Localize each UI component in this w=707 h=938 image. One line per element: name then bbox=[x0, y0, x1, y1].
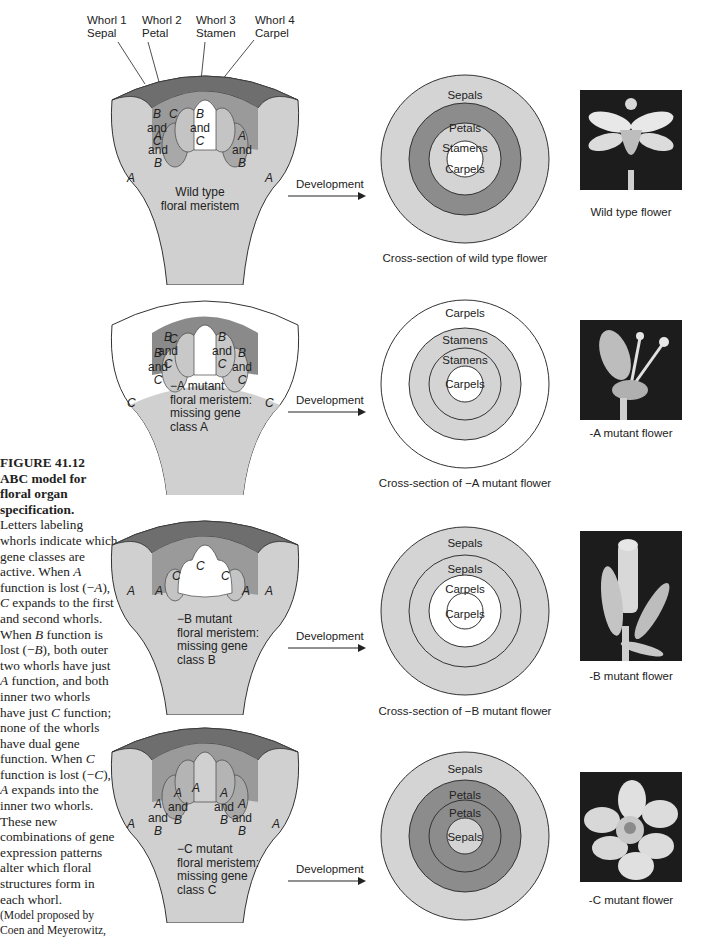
development-arrow-icon bbox=[288, 875, 368, 887]
and-text: and bbox=[168, 800, 188, 814]
gene-letter: A bbox=[238, 129, 246, 143]
photo-caption: -A mutant flower bbox=[566, 427, 696, 439]
ring-label-3: Stamens bbox=[405, 142, 525, 154]
photo-caption: Wild type flower bbox=[566, 206, 696, 218]
development-label: Development bbox=[296, 630, 364, 642]
ring-label-2: Sepals bbox=[405, 563, 525, 575]
minus-b-flower-photo bbox=[580, 531, 682, 661]
gene-letter: B bbox=[154, 824, 162, 838]
gene-letter: B bbox=[174, 813, 182, 827]
development-arrow-icon bbox=[288, 190, 368, 202]
gene-letter: B bbox=[238, 824, 246, 838]
meristem-w2-left-label: AandB bbox=[148, 798, 168, 839]
ring-label-1: Sepals bbox=[405, 89, 525, 101]
meristem-w2-right-label: AandB bbox=[232, 130, 252, 171]
cross-section-caption: Cross-section of −A mutant flower bbox=[355, 477, 575, 489]
photo-caption: -B mutant flower bbox=[566, 670, 696, 682]
ring-label-2: Petals bbox=[405, 122, 525, 134]
and-text: and bbox=[212, 344, 232, 358]
meristem-text-line: Wild type bbox=[150, 186, 250, 200]
meristem-description: −A mutant floral meristem: missing gene … bbox=[170, 380, 280, 434]
development-label: Development bbox=[296, 394, 364, 406]
meristem-w3-left-label: C bbox=[172, 570, 181, 584]
meristem-outer-right-label: A bbox=[265, 172, 273, 186]
gene-letter: C bbox=[196, 134, 205, 148]
ring-label-2: Petals bbox=[405, 789, 525, 801]
meristem-diagram bbox=[100, 505, 310, 715]
meristem-description: Wild type floral meristem bbox=[150, 186, 250, 213]
meristem-text-line: missing gene bbox=[177, 640, 287, 654]
ring-label-4: Carpels bbox=[405, 163, 525, 175]
meristem-description: −B mutant floral meristem: missing gene … bbox=[177, 613, 287, 667]
and-text: and bbox=[190, 121, 210, 135]
gene-letter: A bbox=[238, 797, 246, 811]
meristem-text-line: floral meristem bbox=[150, 200, 250, 214]
gene-letter: A bbox=[154, 797, 162, 811]
ring-label-4: Carpels bbox=[405, 608, 525, 620]
photo-caption: -C mutant flower bbox=[566, 894, 696, 906]
gene-letter: A bbox=[174, 786, 182, 800]
meristem-outer-right-label: A bbox=[272, 818, 280, 832]
gene-letter: B bbox=[220, 813, 228, 827]
meristem-text-line: missing gene bbox=[170, 407, 280, 421]
meristem-description: −C mutant floral meristem: missing gene … bbox=[177, 843, 287, 897]
ring-label-3: Petals bbox=[405, 807, 525, 819]
meristem-outer-left-label: C bbox=[127, 397, 136, 411]
and-text: and bbox=[232, 143, 252, 157]
gene-letter: A bbox=[220, 786, 228, 800]
meristem-text-line: class C bbox=[177, 884, 287, 898]
ring-label-1: Carpels bbox=[405, 307, 525, 319]
meristem-w3-right-label: C bbox=[221, 570, 230, 584]
and-text: and bbox=[232, 811, 252, 825]
meristem-w3-left-label: AandB bbox=[168, 787, 188, 828]
cross-section-caption: Cross-section of wild type flower bbox=[355, 252, 575, 264]
ring-label-3: Stamens bbox=[405, 354, 525, 366]
meristem-w3-right-label: BandC bbox=[212, 331, 232, 372]
gene-letter: B bbox=[196, 107, 204, 121]
gene-letter: B bbox=[153, 107, 161, 121]
meristem-center-label: A bbox=[192, 782, 200, 796]
ring-label-4: Carpels bbox=[405, 378, 525, 390]
gene-letter: C bbox=[154, 373, 163, 387]
development-arrow-icon bbox=[288, 406, 368, 418]
meristem-outer-left-label: A bbox=[127, 172, 135, 186]
panel-wild-type: A A C BandC BandC AandB AandB Wild type … bbox=[0, 60, 707, 285]
meristem-text-line: floral meristem: bbox=[177, 857, 287, 871]
development-arrow-icon bbox=[288, 642, 368, 654]
and-text: and bbox=[148, 360, 168, 374]
gene-letter: B bbox=[238, 346, 246, 360]
meristem-outer-right-label: A bbox=[265, 585, 273, 599]
meristem-w2-left-label: BandC bbox=[148, 347, 168, 388]
and-text: and bbox=[232, 360, 252, 374]
gene-letter: B bbox=[218, 330, 226, 344]
meristem-center-label: C bbox=[169, 108, 178, 122]
meristem-text-line: missing gene bbox=[177, 870, 287, 884]
meristem-w2-right-label: A bbox=[242, 585, 250, 599]
meristem-w3-right-label: BandC bbox=[190, 108, 210, 149]
gene-letter: B bbox=[238, 156, 246, 170]
development-label: Development bbox=[296, 863, 364, 875]
wild-type-flower-photo bbox=[580, 90, 682, 190]
meristem-text-line: class A bbox=[170, 421, 280, 435]
panel-minus-b: A A A A C C C −B mutant floral meristem:… bbox=[0, 505, 707, 715]
meristem-w2-right-label: AandB bbox=[232, 798, 252, 839]
gene-letter: C bbox=[218, 357, 227, 371]
meristem-text-line: −A mutant bbox=[170, 380, 280, 394]
gene-letter: B bbox=[154, 156, 162, 170]
and-text: and bbox=[148, 811, 168, 825]
ring-label-1: Sepals bbox=[405, 763, 525, 775]
meristem-text-line: floral meristem: bbox=[170, 394, 280, 408]
development-label: Development bbox=[296, 178, 364, 190]
meristem-text-line: class B bbox=[177, 654, 287, 668]
meristem-text-line: −C mutant bbox=[177, 843, 287, 857]
meristem-text-line: −B mutant bbox=[177, 613, 287, 627]
meristem-w2-left-label: AandB bbox=[148, 130, 168, 171]
minus-a-flower-photo bbox=[580, 320, 682, 420]
gene-letter: A bbox=[154, 129, 162, 143]
meristem-center-label: C bbox=[196, 560, 205, 574]
ring-label-2: Stamens bbox=[405, 334, 525, 346]
ring-label-3: Carpels bbox=[405, 583, 525, 595]
and-text: and bbox=[148, 143, 168, 157]
gene-letter: B bbox=[164, 330, 172, 344]
ring-label-4: Sepals bbox=[405, 831, 525, 843]
